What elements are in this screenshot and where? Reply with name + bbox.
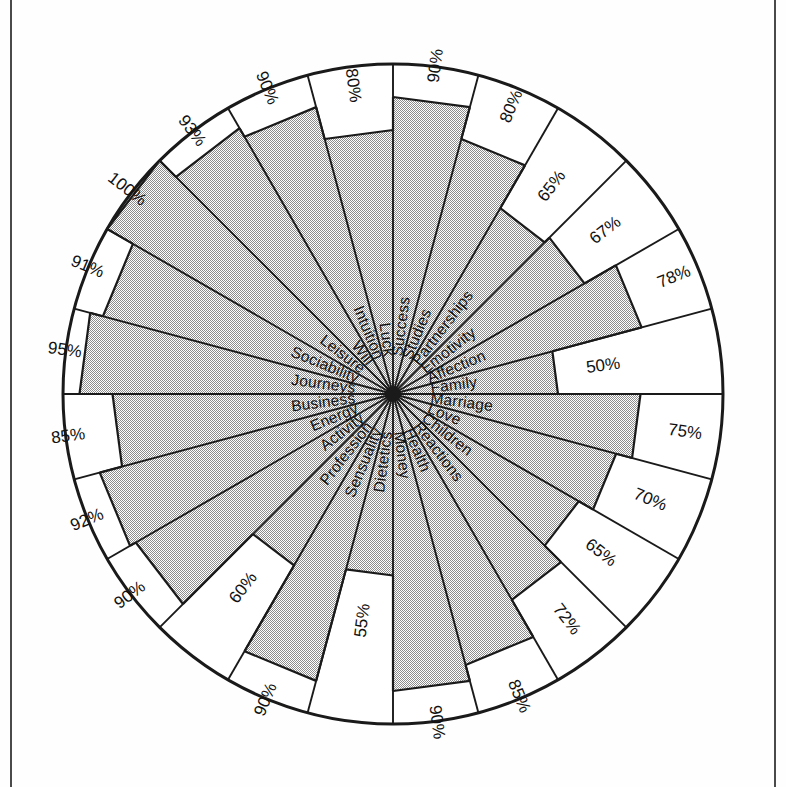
life-balance-wheel-figure: SuccessStudiesPartnershipsEmotivityAffec… [0,0,786,787]
page-canvas: SuccessStudiesPartnershipsEmotivityAffec… [0,0,786,787]
wheel-svg: SuccessStudiesPartnershipsEmotivityAffec… [0,0,786,787]
percent-label: 90% [426,704,449,740]
percent-label: 95% [47,338,83,361]
wheel-hub [386,387,401,402]
